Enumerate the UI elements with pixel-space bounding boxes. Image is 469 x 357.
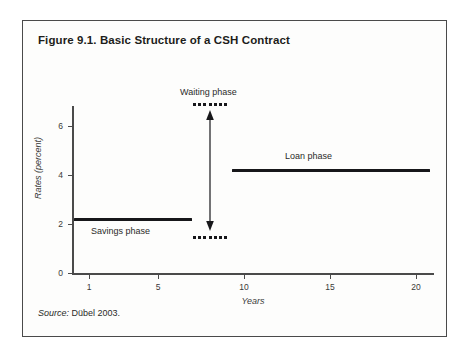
y-tick-4 [68, 175, 73, 176]
loan-phase-label: Loan phase [285, 151, 332, 161]
waiting-phase-label: Waiting phase [180, 87, 237, 97]
x-tick-10 [244, 274, 245, 279]
source-label: Source: [38, 308, 69, 318]
chart-plot-area: 0 2 4 6 1 5 10 15 20 Rates (percent) Yea… [23, 21, 448, 338]
x-tick-label-15: 15 [317, 282, 343, 292]
y-tick-6 [68, 126, 73, 127]
y-tick-label-4: 4 [41, 170, 63, 180]
y-tick-label-6: 6 [41, 121, 63, 131]
x-tick-20 [416, 274, 417, 279]
x-tick-5 [158, 274, 159, 279]
waiting-phase-span-arrow [201, 108, 219, 233]
y-tick-0 [68, 273, 73, 274]
x-tick-label-5: 5 [145, 282, 171, 292]
savings-phase-label: Savings phase [91, 226, 150, 236]
figure-frame: Figure 9.1. Basic Structure of a CSH Con… [22, 20, 447, 337]
x-tick-label-20: 20 [403, 282, 429, 292]
y-axis-title: Rates (percent) [33, 123, 43, 213]
waiting-phase-upper-dotted-line [193, 103, 229, 106]
source-citation: Dübel 2003. [69, 308, 120, 318]
savings-phase-line [74, 218, 192, 221]
x-axis-line [72, 273, 434, 275]
y-tick-label-2: 2 [41, 219, 63, 229]
y-axis-line [72, 106, 74, 274]
x-tick-label-1: 1 [76, 282, 102, 292]
x-axis-title: Years [72, 296, 434, 306]
waiting-phase-lower-dotted-line [193, 236, 229, 239]
source-note: Source: Dübel 2003. [38, 308, 120, 318]
x-tick-15 [330, 274, 331, 279]
x-tick-label-10: 10 [231, 282, 257, 292]
loan-phase-line [232, 169, 430, 172]
y-tick-label-0: 0 [41, 268, 63, 278]
y-tick-2 [68, 224, 73, 225]
x-tick-1 [89, 274, 90, 279]
